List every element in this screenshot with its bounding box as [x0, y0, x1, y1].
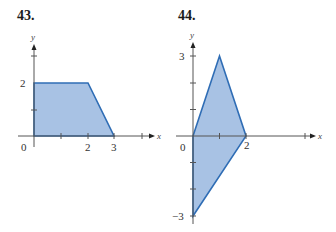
shaded-region-43: [34, 83, 114, 136]
y-axis-arrow-icon: [191, 42, 196, 48]
x-axis-label-43: x: [156, 131, 161, 141]
y-axis-label-43: y: [30, 32, 35, 42]
x-tick-label-2: 2: [85, 141, 91, 153]
graph-43: y x 2 0 2 3: [18, 32, 161, 153]
x-axis-arrow-icon: [149, 134, 155, 139]
origin-label-43: 0: [21, 141, 27, 153]
y-axis-label-44: y: [189, 30, 194, 40]
graphs-canvas: y x 2 0 2 3 y x 3 −3 0 2: [0, 0, 336, 232]
y-tick-label-neg3: −3: [172, 210, 184, 222]
x-axis-arrow-icon: [310, 134, 316, 139]
graph-44: y x 3 −3 0 2: [172, 30, 322, 224]
y-tick-label-2: 2: [20, 77, 26, 89]
x-axis-label-44: x: [317, 131, 322, 141]
y-tick-label-3: 3: [179, 50, 185, 62]
x-tick-label-3: 3: [111, 141, 117, 153]
origin-label-44: 0: [180, 141, 186, 153]
y-axis-arrow-icon: [32, 44, 37, 50]
x-tick-label-2: 2: [244, 139, 250, 151]
